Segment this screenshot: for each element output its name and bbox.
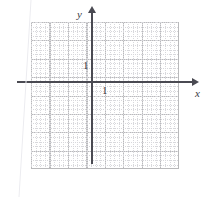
x-axis-label: x [195,88,200,99]
y-axis-tick-label-one: 1 [83,60,89,71]
x-axis-tick-label-one: 1 [102,85,108,96]
x-axis-line [17,81,195,83]
y-axis-arrow-icon [88,6,96,13]
y-axis-label: y [77,9,82,20]
y-axis-line [91,12,93,164]
x-axis-arrow-icon [192,78,199,86]
coordinate-plane-figure: x y 1 1 [0,0,205,197]
